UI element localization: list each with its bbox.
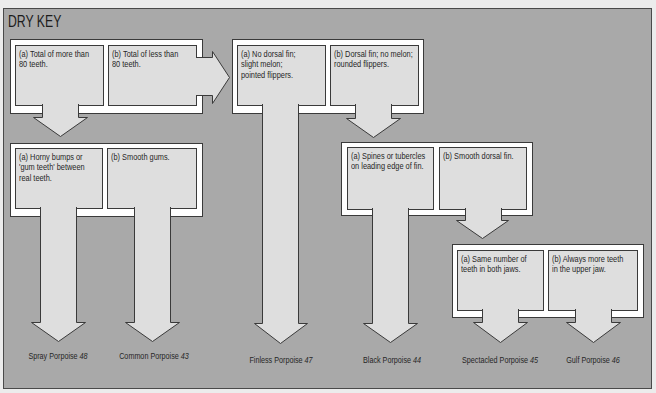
couplet-2-option-a-text: (a) Horny bumps or 'gum teeth' between r…	[19, 152, 85, 183]
couplet-5-option-b-text: (b) Always more teeth in the upper jaw.	[552, 254, 623, 275]
result-common-porpoise: Common Porpoise 43	[119, 351, 189, 361]
result-finless-porpoise: Finless Porpoise 47	[249, 355, 312, 365]
couplet-4-option-a-text: (a) Spines or tubercles on leading edge …	[351, 151, 425, 172]
key-title: DRY KEY	[8, 13, 61, 30]
dichotomous-key-diagram	[0, 0, 656, 393]
couplet-3-option-a-text: (a) No dorsal fin; slight melon; pointed…	[241, 49, 296, 80]
result-black-porpoise: Black Porpoise 44	[363, 355, 421, 365]
couplet-1-option-a-text: (a) Total of more than 80 teeth.	[19, 49, 89, 70]
result-spray-porpoise: Spray Porpoise 48	[28, 351, 87, 361]
couplet-1-option-b-text: (b) Total of less than 80 teeth.	[112, 49, 178, 70]
result-gulf-porpoise: Gulf Porpoise 46	[566, 355, 620, 365]
result-spectacled-porpoise: Spectacled Porpoise 45	[462, 355, 538, 365]
couplet-3-option-b-text: (b) Dorsal fin; no melon; rounded flippe…	[334, 49, 413, 70]
couplet-4-option-b-text: (b) Smooth dorsal fin.	[443, 151, 514, 161]
couplet-5-option-a-text: (a) Same number of teeth in both jaws.	[461, 254, 527, 275]
couplet-2-option-b-text: (b) Smooth gums.	[111, 152, 170, 162]
